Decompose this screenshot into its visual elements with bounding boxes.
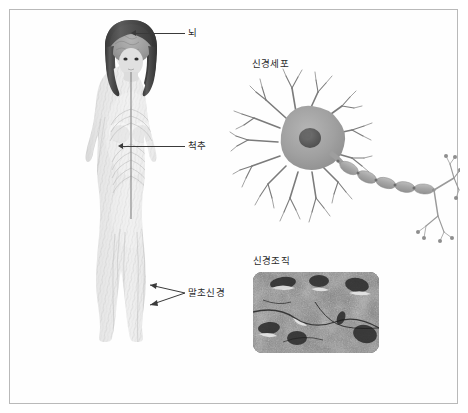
neuron-illustration bbox=[228, 66, 460, 244]
leader-line-spine bbox=[123, 146, 185, 147]
label-nerve-tissue: 신경조직 bbox=[253, 256, 290, 266]
arrowhead-brain bbox=[131, 30, 136, 36]
leader-line-peripheral-nerve bbox=[138, 276, 188, 312]
nerve-tissue-micrograph bbox=[253, 272, 379, 353]
label-spine: 척추 bbox=[188, 141, 206, 151]
leader-line-brain bbox=[136, 33, 185, 34]
label-peripheral-nerve: 말초신경 bbox=[188, 288, 225, 298]
arrowhead-spine bbox=[118, 143, 123, 149]
human-body-illustration bbox=[72, 14, 190, 392]
nervous-system-figure: 뇌 척추 말초신경 신경세포 신경조직 bbox=[0, 0, 468, 413]
label-brain: 뇌 bbox=[188, 28, 197, 38]
